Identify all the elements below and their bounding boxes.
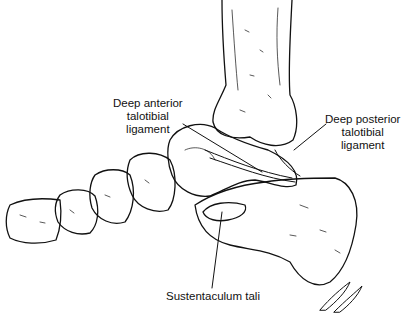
- label-line: Deep posterior: [325, 113, 400, 126]
- midfoot-bones: [6, 153, 175, 243]
- leader-deep-anterior: [183, 124, 262, 172]
- artist-signature: [320, 282, 362, 312]
- sustentaculum-tali-shape: [203, 203, 246, 221]
- label-line: talotibial: [113, 110, 183, 123]
- leader-deep-posterior: [294, 124, 326, 150]
- leader-sustentaculum: [212, 212, 222, 288]
- label-deep-anterior-talotibial-ligament: Deep anterior talotibial ligament: [113, 97, 183, 136]
- label-deep-posterior-talotibial-ligament: Deep posterior talotibial ligament: [325, 113, 400, 152]
- label-line: ligament: [113, 123, 183, 136]
- label-line: Deep anterior: [113, 97, 183, 110]
- label-line: ligament: [325, 139, 400, 152]
- label-line: talotibial: [325, 126, 400, 139]
- label-sustentaculum-tali: Sustentaculum tali: [166, 290, 260, 303]
- ankle-illustration: [0, 0, 418, 327]
- tibia: [213, 0, 297, 146]
- label-line: Sustentaculum tali: [166, 290, 260, 303]
